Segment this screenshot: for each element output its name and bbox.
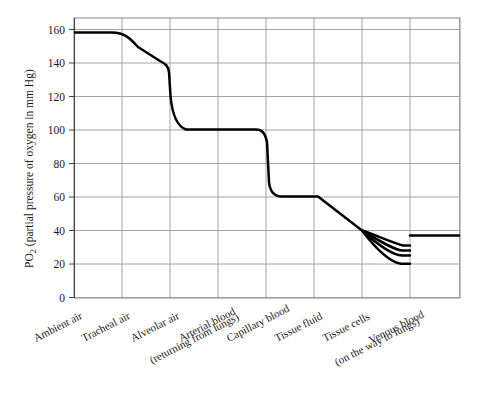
y-tick-label-120: 120: [48, 91, 66, 103]
y-axis-title-rest: (partial pressure of oxygen in mm Hg): [23, 69, 36, 249]
y-tick-label-100: 100: [48, 124, 66, 136]
y-tick-label-0: 0: [59, 292, 65, 304]
y-tick-label-40: 40: [54, 225, 66, 237]
chart-root: 160 140 120 100 80 60 40 20 0 PO2 (parti…: [0, 0, 487, 393]
y-tick-label-80: 80: [54, 158, 66, 170]
y-tick-label-140: 140: [48, 57, 66, 69]
y-tick-label-20: 20: [54, 258, 66, 270]
oxygen-cascade-chart: 160 140 120 100 80 60 40 20 0 PO2 (parti…: [0, 0, 487, 393]
y-tick-label-160: 160: [48, 24, 66, 36]
y-axis-title-main: PO: [23, 253, 35, 268]
y-tick-label-60: 60: [54, 191, 66, 203]
